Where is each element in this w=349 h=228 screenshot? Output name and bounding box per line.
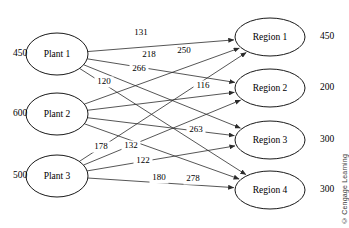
destination-node-region1[interactable]: Region 1 bbox=[235, 18, 305, 56]
destination-node-label: Region 2 bbox=[253, 83, 288, 93]
supply-label-plant3: 500 bbox=[13, 170, 28, 180]
arc-plant1-region3 bbox=[84, 65, 241, 128]
destination-node-region4[interactable]: Region 4 bbox=[235, 171, 305, 209]
copyright-credit: © Cengage Learning bbox=[341, 154, 348, 224]
arc-plant3-region2 bbox=[83, 100, 240, 165]
supply-label-plant2: 600 bbox=[13, 108, 28, 118]
supply-label-plant1: 450 bbox=[13, 48, 28, 58]
source-node-plant3[interactable]: Plant 3 bbox=[26, 155, 88, 197]
destination-node-label: Region 1 bbox=[253, 32, 288, 42]
arc-cost-label-plant1-region3: 266 bbox=[132, 63, 146, 73]
source-node-plant2[interactable]: Plant 2 bbox=[26, 93, 88, 135]
arc-cost-label-plant1-region4: 120 bbox=[97, 76, 111, 86]
arc-labels-layer: 131218266120250116263278178132122180 bbox=[92, 27, 213, 184]
arc-plant1-region1 bbox=[88, 40, 234, 52]
source-node-label: Plant 2 bbox=[44, 109, 71, 119]
demand-label-region1: 450 bbox=[320, 31, 335, 41]
destination-node-label: Region 4 bbox=[253, 185, 288, 195]
arc-cost-label-plant2-region4: 278 bbox=[186, 173, 200, 183]
arc-cost-label-plant1-region2: 218 bbox=[142, 49, 156, 59]
arc-cost-label-plant2-region1: 250 bbox=[177, 45, 191, 55]
network-diagram-figure: Plant 1Plant 2Plant 3Region 1Region 2Reg… bbox=[0, 0, 349, 228]
demand-label-region2: 200 bbox=[320, 82, 335, 92]
arc-cost-label-plant2-region2: 116 bbox=[196, 80, 210, 90]
arc-cost-label-plant1-region1: 131 bbox=[134, 27, 148, 37]
source-node-label: Plant 1 bbox=[44, 49, 71, 59]
arc-cost-label-plant3-region4: 180 bbox=[152, 172, 166, 182]
arcs-layer bbox=[79, 40, 246, 188]
network-graph-svg: Plant 1Plant 2Plant 3Region 1Region 2Reg… bbox=[0, 0, 349, 228]
arc-cost-label-plant3-region2: 132 bbox=[124, 140, 138, 150]
arc-cost-label-plant2-region3: 263 bbox=[189, 124, 203, 134]
source-node-label: Plant 3 bbox=[44, 171, 71, 181]
destination-node-region2[interactable]: Region 2 bbox=[235, 69, 305, 107]
demand-label-region4: 300 bbox=[320, 184, 335, 194]
arc-cost-label-plant3-region3: 122 bbox=[136, 155, 150, 165]
destination-node-region3[interactable]: Region 3 bbox=[235, 121, 305, 159]
source-node-plant1[interactable]: Plant 1 bbox=[26, 33, 88, 75]
demand-label-region3: 300 bbox=[320, 134, 335, 144]
destination-node-label: Region 3 bbox=[253, 135, 288, 145]
arc-cost-label-plant3-region1: 178 bbox=[94, 141, 108, 151]
